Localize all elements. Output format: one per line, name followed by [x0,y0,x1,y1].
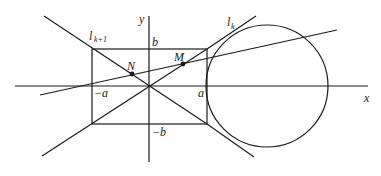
label-a: a [198,86,204,100]
secant-line-nm [40,30,337,95]
diagram-canvas: y x b −b −a a N M l k+1 l k [0,0,381,176]
label-l-k-sub: k [231,22,235,31]
label-n: N [126,59,136,73]
lower-tangent-line [207,124,254,157]
label-b: b [152,35,158,49]
label-neg-b: −b [152,125,166,139]
x-axis-label: x [363,91,370,105]
tangent-line-l-k [207,16,256,49]
label-neg-a: −a [94,86,108,100]
geometry-diagram: y x b −b −a a N M l k+1 l k [0,0,381,176]
line-l-k-plus-1 [44,16,207,124]
label-l-k-plus-1: l [89,29,93,43]
y-axis-label: y [138,12,145,26]
label-m: M [173,50,185,64]
label-l-k-plus-1-sub: k+1 [94,35,107,44]
